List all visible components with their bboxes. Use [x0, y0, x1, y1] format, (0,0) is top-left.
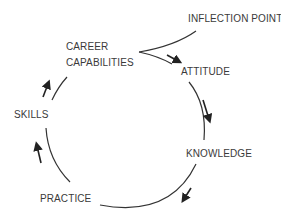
attitude-to-knowledge-arc [189, 82, 204, 140]
skills-to-career-arc [52, 77, 67, 100]
career-label-line2: CAPABILITIES [66, 57, 134, 69]
arrow-to-attitude [167, 55, 178, 61]
skills-label: SKILLS [14, 109, 49, 121]
practice-to-skills-arc [46, 128, 70, 182]
career-label-line1: CAREER [66, 41, 108, 53]
career-to-attitude-arc [139, 52, 172, 64]
attitude-label: ATTITUDE [181, 66, 230, 78]
arrow-to-skills [37, 146, 41, 163]
arrow-to-practice [184, 188, 191, 199]
knowledge-label: KNOWLEDGE [186, 148, 252, 160]
arrow-to-career [43, 84, 48, 97]
inflection-point-label: INFLECTION POINT [188, 13, 281, 25]
practice-label: PRACTICE [40, 193, 91, 205]
inflection-curve [139, 31, 196, 52]
knowledge-to-practice-arc [100, 164, 196, 208]
